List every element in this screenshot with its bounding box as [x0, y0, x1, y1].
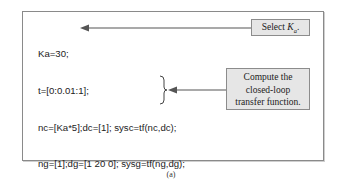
callout-select-ka: Select Ka.: [251, 19, 310, 36]
callout-line-3: transfer function.: [227, 96, 309, 109]
callout-line-2: closed-loop: [227, 84, 309, 97]
arrow-left-icon: [168, 87, 226, 94]
callout-line-1: Compute the: [227, 71, 309, 84]
curly-brace-icon: [160, 76, 167, 104]
figure-caption: (a): [0, 170, 342, 179]
callout-closed-loop: Compute the closed-loop transfer functio…: [226, 68, 310, 110]
callout-period: .: [297, 22, 299, 32]
callout-select-text: Select: [262, 22, 288, 32]
arrow-left-icon: [80, 25, 251, 32]
